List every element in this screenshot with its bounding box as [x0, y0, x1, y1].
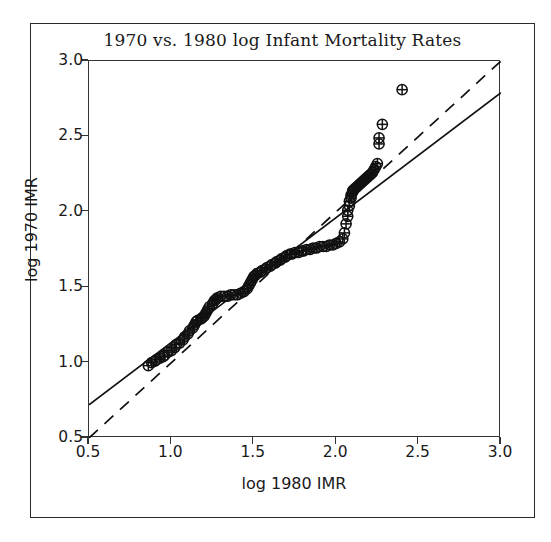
data-point: [397, 85, 407, 95]
y-tick-label: 0.5: [58, 428, 83, 446]
plot-area: [88, 60, 500, 437]
y-tick-label: 2.5: [58, 126, 83, 144]
data-point: [377, 119, 387, 129]
plot-canvas: [89, 61, 501, 438]
data-point: [374, 133, 384, 143]
x-tick-label: 1.5: [240, 443, 265, 461]
x-tick-label: 1.0: [158, 443, 183, 461]
figure-root: 1970 vs. 1980 log Infant Mortality Rates…: [0, 0, 551, 542]
scatter-points-group: [143, 85, 407, 371]
y-tick-label: 1.0: [58, 353, 83, 371]
y-tick-label: 2.0: [58, 202, 83, 220]
data-point: [372, 158, 382, 168]
x-tick-label: 3.0: [488, 443, 513, 461]
x-tick-label: 2.0: [323, 443, 348, 461]
y-tick-label: 3.0: [58, 51, 83, 69]
x-tick-label: 2.5: [405, 443, 430, 461]
y-axis-title: log 1970 IMR: [22, 150, 41, 310]
x-axis-title: log 1980 IMR: [88, 474, 500, 493]
chart-title: 1970 vs. 1980 log Infant Mortality Rates: [30, 30, 535, 50]
y-tick-label: 1.5: [58, 277, 83, 295]
